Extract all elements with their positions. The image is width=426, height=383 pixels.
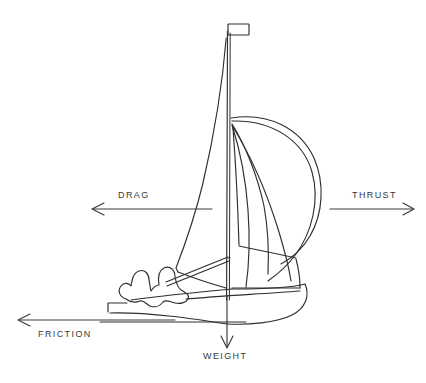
drag-arrow xyxy=(92,203,212,215)
force-diagram: DRAG THRUST FRICTION WEIGHT xyxy=(0,0,426,383)
lower-sail-panel-edge xyxy=(296,259,300,288)
mast xyxy=(227,31,228,300)
spinnaker-outer-bulge xyxy=(232,121,315,281)
weight-label: WEIGHT xyxy=(203,352,247,361)
spinnaker-outer-leech xyxy=(231,117,321,264)
drag-label: DRAG xyxy=(118,191,150,200)
friction-label: FRICTION xyxy=(38,330,92,339)
thrust-label: THRUST xyxy=(352,191,397,200)
thrust-arrow xyxy=(330,203,414,215)
spinnaker-seam-3 xyxy=(233,127,291,281)
mainsail xyxy=(176,38,226,272)
jib-foot xyxy=(239,246,296,258)
deck-step xyxy=(108,303,127,312)
flag-icon xyxy=(228,24,249,35)
sailboat-drawing xyxy=(100,24,321,324)
friction-arrow xyxy=(18,314,175,326)
mast-inner-edge xyxy=(229,33,230,300)
crew-figures xyxy=(119,267,188,307)
hull-bottom xyxy=(227,284,307,324)
